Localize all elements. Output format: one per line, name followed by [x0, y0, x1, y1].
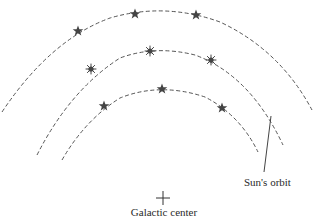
orbit-path	[62, 90, 258, 160]
star-icon	[73, 26, 84, 36]
orbit-outer	[2, 9, 312, 113]
sun-orbit-label: Sun's orbit	[244, 177, 291, 188]
galactic-center-label: Galactic center	[123, 207, 205, 218]
orbit-inner	[62, 84, 258, 161]
star-icon	[130, 9, 141, 19]
plus-icon	[156, 191, 170, 205]
orbit-path	[37, 51, 283, 155]
star-icon	[191, 10, 202, 20]
star-icon	[157, 84, 168, 94]
sun-orbit-pointer-line	[264, 116, 271, 172]
orbit-path	[2, 11, 312, 112]
orbits-layer	[2, 9, 312, 161]
burst-star-icon	[86, 64, 96, 74]
orbit-middle	[37, 46, 283, 155]
burst-star-icon	[145, 46, 155, 56]
galactic-orbits-diagram	[0, 0, 315, 223]
burst-star-icon	[206, 55, 216, 65]
